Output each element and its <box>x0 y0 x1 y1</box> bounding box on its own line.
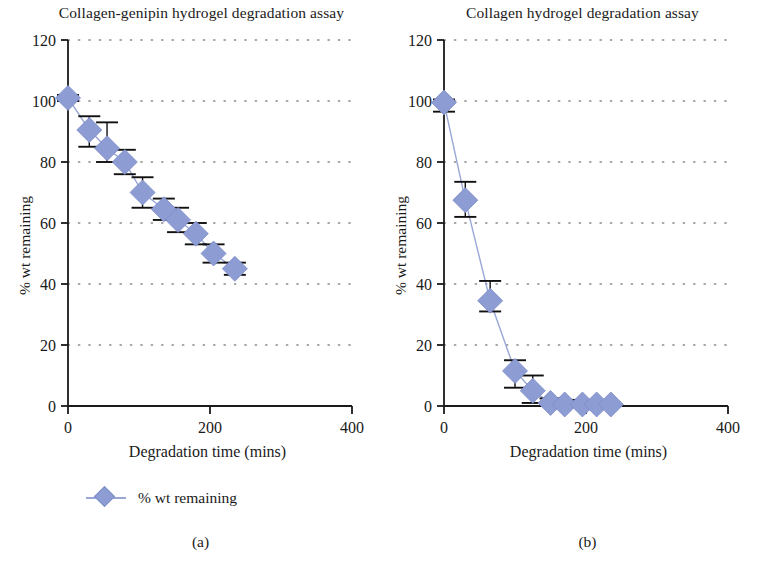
panel-a: Collagen-genipin hydrogel degradation as… <box>0 0 385 565</box>
y-tick-label: 100 <box>408 93 432 110</box>
x-tick-label: 400 <box>716 419 740 436</box>
data-line <box>444 103 611 405</box>
data-point-marker <box>56 85 81 110</box>
x-tick-label: 200 <box>574 419 598 436</box>
x-axis-title-b: Degradation time (mins) <box>386 443 771 461</box>
y-tick-label: 40 <box>416 276 432 293</box>
chart-title-a: Collagen-genipin hydrogel degradation as… <box>0 4 385 22</box>
x-tick-label: 400 <box>340 419 364 436</box>
x-tick-label: 0 <box>64 419 72 436</box>
subplot-label-a: (a) <box>0 533 385 551</box>
plot-area-b: 0204060801001200200400 <box>386 24 771 444</box>
legend-label-a: % wt remaining <box>138 489 237 507</box>
y-tick-label: 120 <box>408 32 432 49</box>
x-tick-label: 0 <box>440 419 448 436</box>
plot-area-a: 0204060801001200200400 <box>0 24 385 444</box>
y-tick-label: 80 <box>416 154 432 171</box>
y-tick-label: 0 <box>48 398 56 415</box>
y-tick-label: 40 <box>40 276 56 293</box>
panel-b: Collagen hydrogel degradation assay % wt… <box>386 0 771 565</box>
data-point-marker <box>478 288 503 313</box>
data-point-marker <box>222 256 247 281</box>
x-tick-label: 200 <box>198 419 222 436</box>
data-point-marker <box>453 188 478 213</box>
y-tick-label: 0 <box>424 398 432 415</box>
subplot-label-b: (b) <box>386 533 771 551</box>
data-point-marker <box>598 392 623 417</box>
y-tick-label: 20 <box>40 337 56 354</box>
y-tick-label: 60 <box>40 215 56 232</box>
y-tick-label: 80 <box>40 154 56 171</box>
legend-diamond-icon <box>86 489 126 507</box>
data-point-marker <box>130 180 155 205</box>
y-tick-label: 120 <box>32 32 56 49</box>
legend-a: % wt remaining <box>86 489 237 507</box>
chart-title-b: Collagen hydrogel degradation assay <box>386 4 771 22</box>
y-tick-label: 60 <box>416 215 432 232</box>
y-tick-label: 20 <box>416 337 432 354</box>
data-point-marker <box>112 150 137 175</box>
figure-container: Collagen-genipin hydrogel degradation as… <box>0 0 771 565</box>
x-axis-title-a: Degradation time (mins) <box>0 443 385 461</box>
y-tick-label: 100 <box>32 93 56 110</box>
